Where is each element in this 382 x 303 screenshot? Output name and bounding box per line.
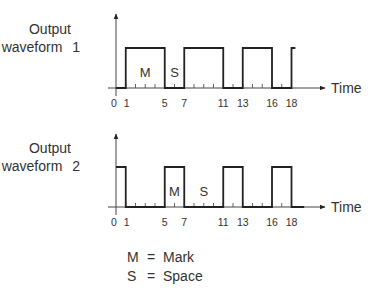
tick-label-18: 18 [286, 216, 298, 228]
waveform-2-title-line-1: Output [29, 140, 71, 156]
legend-symbol-m: M [127, 249, 139, 265]
legend-meaning-space: Space [163, 268, 203, 284]
tick-label-11: 11 [218, 216, 229, 228]
annotation-s: S [199, 184, 208, 199]
tick-label-1: 1 [124, 216, 130, 228]
waveform-1-tick-labels: 015711131618 [111, 97, 297, 109]
legend-item-space: S = Space [127, 268, 203, 284]
tick-label-5: 5 [162, 97, 168, 109]
annotation-m: M [169, 184, 180, 199]
waveform-1-minor-ticks [126, 84, 292, 88]
waveform-2-annotations: MS [169, 184, 208, 199]
tick-label-16: 16 [266, 97, 278, 109]
annotation-m: M [140, 65, 151, 80]
waveform-2-time-label: Time [331, 199, 362, 215]
legend-symbol-s: S [127, 268, 136, 284]
tick-label-16: 16 [266, 216, 278, 228]
tick-label-7: 7 [181, 97, 187, 109]
waveform-1-plot: Output waveform 1 Time 015711131618 MS [1, 14, 362, 109]
tick-label-5: 5 [162, 216, 168, 228]
tick-label-0: 0 [111, 97, 117, 109]
waveform-1-title-line-1: Output [29, 21, 71, 37]
waveform-2-number: 2 [72, 158, 80, 174]
waveform-1-number: 1 [72, 39, 80, 55]
waveform-2-title-text: waveform [1, 158, 63, 174]
waveform-1-annotations: MS [140, 65, 179, 80]
tick-label-11: 11 [218, 97, 229, 109]
tick-label-7: 7 [181, 216, 187, 228]
waveform-2-title-line-2: waveform 2 [1, 158, 81, 174]
legend-equals-s: = [147, 268, 155, 284]
legend-equals-m: = [147, 249, 155, 265]
waveform-diagram: Output waveform 1 Time 015711131618 MS O… [0, 0, 382, 303]
tick-label-13: 13 [237, 216, 249, 228]
waveform-1-time-label: Time [331, 80, 362, 96]
annotation-s: S [170, 65, 179, 80]
tick-label-1: 1 [124, 97, 130, 109]
waveform-2-plot: Output waveform 2 Time 015711131618 MS [1, 134, 362, 228]
legend-meaning-mark: Mark [163, 249, 195, 265]
waveform-2-tick-labels: 015711131618 [111, 216, 297, 228]
waveform-2-signal [116, 167, 304, 207]
legend: M = Mark S = Space [127, 249, 203, 284]
legend-item-mark: M = Mark [127, 249, 195, 265]
tick-label-13: 13 [237, 97, 249, 109]
waveform-1-title-text: waveform [1, 39, 63, 55]
waveform-1-title-line-2: waveform 1 [1, 39, 81, 55]
tick-label-0: 0 [111, 216, 117, 228]
tick-label-18: 18 [286, 97, 298, 109]
